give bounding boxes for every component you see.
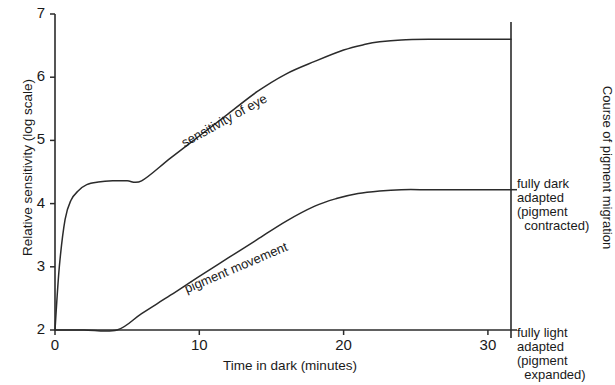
y-tick-label: 7 [21,4,45,21]
annotation-fully-light-adapted: fully light adapted (pigment expanded) [517,326,586,382]
x-tick-label: 30 [473,336,503,353]
curve-sensitivity-of-eye [55,39,511,330]
right-axis-title: Course of pigment migration [600,58,615,278]
x-tick-label: 0 [40,336,70,353]
y-tick-label: 3 [21,257,45,274]
y-tick-label: 2 [21,320,45,337]
y-axis-title: Relative sensitivity (log scale) [20,78,35,258]
x-axis-title: Time in dark (minutes) [175,358,405,373]
annotation-fully-dark-adapted: fully dark adapted (pigment contracted) [517,177,589,233]
x-tick-label: 20 [329,336,359,353]
x-tick-label: 10 [184,336,214,353]
curve-pigment-movement [55,190,511,332]
ticks-group [50,14,517,335]
axes-group [55,14,511,338]
curves-group [55,39,511,331]
